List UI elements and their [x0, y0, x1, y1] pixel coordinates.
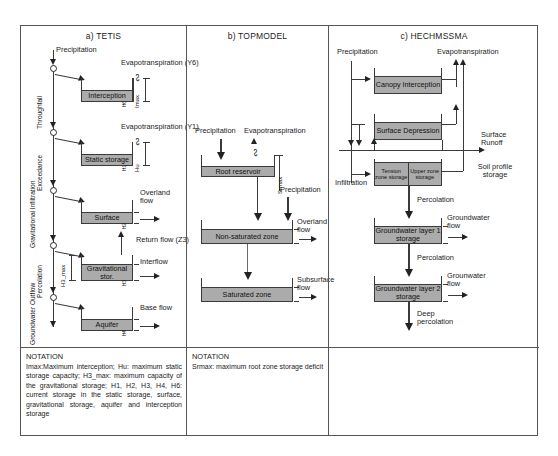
label-percolation-c2: Percolation — [417, 254, 454, 262]
panel-a-title: a) TETIS — [21, 31, 186, 41]
gw1-flow-arrow — [462, 234, 468, 240]
spine-arrow-2 — [50, 180, 56, 186]
brace-h3max — [71, 255, 72, 281]
tank-surface-depression: Surface Depression — [374, 122, 442, 140]
label-precipitation-b: Precipitation — [195, 127, 236, 135]
precip-stem-b — [220, 139, 222, 153]
notation-a-title: NOTATION — [26, 352, 182, 361]
label-hu: Hu — [134, 164, 140, 172]
label-h3max: H3_max — [60, 265, 66, 287]
label-subsurface-flow: Subsurface flow — [297, 276, 331, 293]
label-infiltration: Infiltration — [335, 179, 367, 187]
feed-line-2 — [55, 138, 81, 144]
tank-canopy-interception: Canopy Interception — [374, 76, 442, 94]
interflow-line — [140, 276, 154, 277]
tank-gravitational-label: Gravitational stor. — [82, 265, 132, 281]
surface-dep-outlet-r — [442, 140, 443, 150]
label-gravitational-infiltration: Gravitational Infiltration — [29, 184, 36, 248]
panel-c-title: c) HECHMSSMA — [329, 31, 539, 41]
panel-b-title: b) TOPMODEL — [187, 31, 328, 41]
node-infiltration — [50, 187, 57, 194]
feed-line-1 — [55, 74, 81, 80]
base-flow-line — [140, 326, 154, 327]
node-gw-outflow — [50, 294, 57, 301]
return-flow-line — [121, 237, 122, 255]
tank-root-reservoir: Root reservoir — [201, 166, 275, 177]
panel-hechmssma: c) HECHMSSMA Precipitation Evapotranspir… — [328, 26, 539, 435]
tank-groundwater-layer-2: Groundwater layer 2 storage — [374, 284, 442, 302]
label-groundwater-flow-2: Grounwater flow — [447, 272, 497, 289]
label-precipitation-a: Precipitation — [56, 46, 97, 54]
precip-arrow-canopy — [365, 76, 371, 82]
base-flow-arrow — [154, 323, 160, 329]
tank-gw1-label: Groundwater layer 1 storage — [375, 227, 441, 243]
label-overland-flow-b: Overland flow — [297, 218, 329, 235]
tank-non-saturated-zone: Non-saturated zone — [201, 229, 293, 244]
subsurface-flow-arrow — [311, 294, 317, 300]
notation-hechmssma — [329, 347, 539, 435]
gw2-flow-arrow — [462, 292, 468, 298]
precip2-stem-b — [287, 197, 289, 214]
notation-a-body: Imax:Maximum interception; Hu: maximum s… — [26, 362, 182, 418]
percolation2-stem — [408, 244, 410, 270]
tank-saturated-zone: Saturated zone — [201, 287, 293, 302]
tank-upper-zone-label: Upper zone storage — [409, 163, 442, 185]
return-flow-arrow — [118, 231, 124, 237]
deep-percolation-arrow — [405, 323, 413, 331]
canopy-et-line — [442, 79, 456, 80]
notation-topmodel: NOTATION Srmax: maximum root zone storag… — [187, 347, 328, 435]
root-to-nsz-line — [257, 177, 258, 214]
tank-aquifer-state: H4 — [122, 330, 127, 336]
tank-surface-state: H2 — [122, 223, 127, 229]
spine-arrow-1 — [50, 122, 56, 128]
tank-surface-label: Surface — [95, 214, 120, 222]
label-deep-percolation: Deep percolation — [417, 310, 465, 327]
spine-arrow-4 — [50, 287, 56, 293]
et-arrow-c1 — [453, 59, 459, 65]
percolation1-stem — [408, 186, 410, 212]
node-throughfall — [50, 65, 57, 72]
et-squiggle-1: ∾ — [133, 73, 142, 82]
tank-gravitational-state: H3 — [122, 280, 127, 286]
tank-gw2-label: Groundwater layer 2 storage — [375, 285, 441, 301]
surface-et-arrow — [453, 104, 459, 110]
tank-surface-depression-label: Surface Depression — [376, 127, 439, 135]
srmax-cap — [275, 155, 283, 156]
tank-aquifer-label: Aquifer — [96, 321, 119, 329]
tank-gravitational: Gravitational stor. — [81, 264, 133, 281]
feed-line-4 — [55, 251, 81, 257]
gw1-flow-line — [448, 237, 462, 238]
label-evapotranspiration-c: Evapotranspiration — [437, 48, 499, 56]
tank-soil-profile: Tension zone storage Upper zone storage — [374, 162, 442, 186]
overland-flow-line-b — [299, 239, 311, 240]
panel-topmodel: b) TOPMODEL Precipitation Evapotranspira… — [186, 26, 328, 435]
overland-flow-arrow-b — [311, 236, 317, 242]
subsurface-flow-line — [299, 297, 311, 298]
et-trunk-c2 — [463, 61, 464, 171]
precip-stem-a — [53, 50, 54, 59]
precip-branch-surface — [351, 124, 365, 125]
label-evapotranspiration-b: Evapotranspiration — [244, 127, 306, 135]
label-soil-profile-storage: Soil profile storage — [469, 163, 521, 180]
tank-groundwater-layer-1: Groundwater layer 1 storage — [374, 226, 442, 244]
notation-b-title: NOTATION — [192, 352, 324, 361]
label-precipitation-b2: Precipitation — [280, 186, 321, 194]
surface-et-line — [442, 124, 456, 125]
label-surface-runoff: Surface Runoff — [481, 131, 525, 148]
node-percolation — [50, 242, 57, 249]
deep-percolation-stem — [408, 302, 410, 324]
et-arrow-c2 — [460, 59, 466, 65]
tank-static-state: H1 — [122, 165, 127, 171]
surface-runoff-arrow — [479, 147, 485, 153]
infiltration-stem — [351, 150, 352, 174]
feed-line-3 — [55, 196, 81, 202]
tank-saturated-label: Saturated zone — [223, 291, 272, 299]
label-base-flow: Base flow — [140, 304, 172, 312]
spine-arrow-5 — [50, 321, 56, 327]
nsz-to-sz-line — [247, 244, 248, 273]
tank-tension-zone-label: Tension zone storage — [375, 163, 409, 185]
precip-ground-arrow-1 — [348, 140, 354, 146]
precip-ground-stem-2 — [359, 124, 360, 142]
label-exceedance: Exceedance — [36, 155, 43, 191]
node-exceedance — [50, 129, 57, 136]
